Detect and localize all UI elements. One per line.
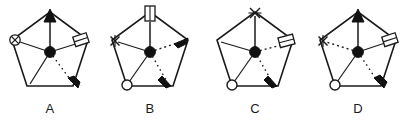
open-circle-icon [122,80,132,90]
center-disc [145,47,156,58]
open-circle-icon [330,80,340,90]
panel-label-d: D [308,101,408,116]
pentagon-svg-c [205,0,305,100]
open-rectangle-icon [382,33,398,47]
center-disc [353,47,364,58]
circled-x-icon [10,35,20,45]
diagram-panel-c: C [205,0,305,126]
center-disc [250,47,261,58]
diagram-panel-b: B [100,0,200,126]
panel-label-c: C [205,101,305,116]
diagram-panel-d: D [308,0,408,126]
pentagon-svg-d [308,0,408,100]
open-circle-icon [227,80,237,90]
panel-label-a: A [0,101,100,116]
open-rectangle-icon [278,34,295,48]
panel-label-b: B [100,101,200,116]
center-disc [45,47,56,58]
pentagon-svg-a [0,0,100,100]
figure-container: A [0,0,410,126]
diagram-panel-a: A [0,0,100,126]
open-rectangle-icon [145,6,155,21]
pentagon-svg-b [100,0,200,100]
